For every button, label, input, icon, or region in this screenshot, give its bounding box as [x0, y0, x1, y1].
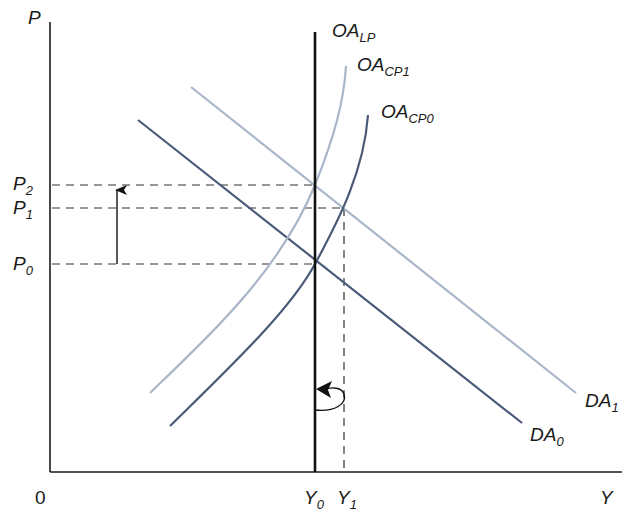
y-axis-label: Y	[600, 488, 613, 507]
p2-tick-label: P2	[13, 174, 33, 193]
dashed-guides	[52, 185, 344, 472]
da0-label: DA0	[530, 425, 564, 444]
p-axis-label: P	[28, 8, 41, 27]
return-arrow-head	[316, 381, 332, 398]
da0-line	[138, 120, 522, 423]
p0-tick-label: P0	[13, 254, 33, 273]
return-curved-arrow	[315, 388, 344, 410]
oa-cp0-curve	[170, 115, 368, 426]
oa-cp1-label: OACP1	[357, 55, 410, 74]
chart-canvas	[0, 0, 632, 524]
oa-cp1-curve	[150, 66, 346, 393]
y1-tick-label: Y1	[337, 488, 357, 507]
oa-cp0-label: OACP0	[381, 102, 434, 121]
p1-tick-label: P1	[13, 198, 33, 217]
oa-lp-label: OALP	[332, 21, 375, 40]
da1-label: DA1	[585, 391, 619, 410]
origin-label: 0	[35, 488, 46, 507]
y0-tick-label: Y0	[304, 488, 324, 507]
